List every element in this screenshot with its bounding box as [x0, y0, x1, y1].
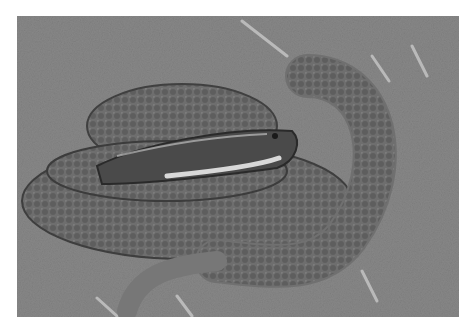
snake-photo	[17, 16, 459, 317]
snake-illustration	[17, 16, 459, 317]
